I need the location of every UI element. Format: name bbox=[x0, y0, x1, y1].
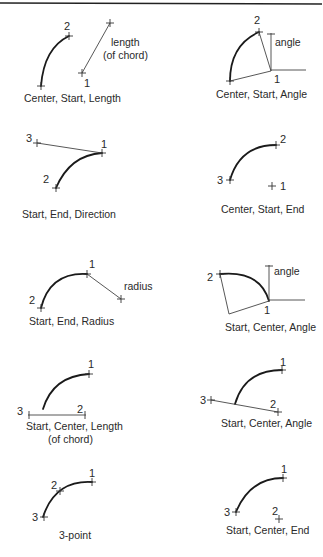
annotation: radius bbox=[124, 280, 153, 292]
point-marker bbox=[106, 19, 114, 27]
point-marker bbox=[207, 396, 215, 404]
center-marker bbox=[268, 182, 276, 190]
arc bbox=[230, 32, 259, 81]
point-marker bbox=[37, 304, 45, 312]
chord-length-line bbox=[82, 23, 110, 73]
point-marker bbox=[88, 478, 96, 486]
arc-methods-figure: 2 1 length (of chord) Center, Start, Len… bbox=[0, 0, 323, 557]
point-label: 1 bbox=[264, 304, 270, 316]
caption: Center, Start, End bbox=[221, 203, 305, 215]
center-line bbox=[211, 400, 278, 412]
point-marker bbox=[255, 28, 263, 36]
point-label: 2 bbox=[29, 294, 35, 306]
point-label: 1 bbox=[101, 138, 107, 150]
direction-line bbox=[37, 143, 102, 153]
top-rule bbox=[0, 3, 322, 4]
panel-three-point: 1 2 3 3-point bbox=[32, 467, 96, 541]
caption: Start, Center, Length bbox=[26, 420, 123, 432]
arc bbox=[56, 153, 102, 188]
caption-line-2: (of chord) bbox=[48, 433, 93, 445]
annotation: length bbox=[111, 36, 140, 48]
point-label: 1 bbox=[280, 180, 286, 192]
panel-start-center-angle-a: 2 1 angle Start, Center, Angle bbox=[207, 265, 316, 333]
point-marker bbox=[279, 474, 287, 482]
arc bbox=[41, 274, 87, 308]
annotation: angle bbox=[274, 265, 300, 277]
point-label: 2 bbox=[270, 398, 276, 410]
panel-center-start-length: 2 1 length (of chord) Center, Start, Len… bbox=[24, 19, 148, 104]
point-marker bbox=[37, 82, 45, 90]
caption: Start, Center, Angle bbox=[221, 417, 312, 429]
panel-start-end-direction: 3 1 2 Start, End, Direction bbox=[22, 132, 116, 220]
point-label: 2 bbox=[43, 173, 49, 185]
radius-line bbox=[230, 71, 271, 81]
caption: Start, Center, Angle bbox=[225, 321, 316, 333]
point-label: 2 bbox=[77, 403, 83, 415]
panel-start-center-length: 1 2 3 Start, Center, Length (of chord) bbox=[17, 358, 123, 445]
point-label: 3 bbox=[26, 132, 32, 144]
caption: Center, Start, Length bbox=[24, 92, 121, 104]
point-marker bbox=[216, 270, 224, 278]
point-marker bbox=[226, 176, 234, 184]
annotation: (of chord) bbox=[103, 49, 148, 61]
point-label: 2 bbox=[254, 14, 260, 26]
point-marker bbox=[226, 77, 234, 85]
annotation: angle bbox=[275, 36, 301, 48]
point-marker bbox=[117, 295, 125, 303]
arc bbox=[230, 145, 276, 180]
point-marker bbox=[78, 69, 86, 77]
point-marker bbox=[272, 141, 280, 149]
caption: Start, End, Direction bbox=[22, 208, 116, 220]
arc bbox=[41, 36, 69, 86]
point-label: 2 bbox=[207, 271, 213, 283]
point-label: 3 bbox=[200, 394, 206, 406]
point-label: 3 bbox=[217, 174, 223, 186]
point-label: 1 bbox=[89, 258, 95, 270]
point-label: 1 bbox=[281, 463, 287, 475]
point-marker bbox=[85, 370, 93, 378]
point-label: 2 bbox=[272, 505, 278, 517]
caption: 3-point bbox=[59, 529, 91, 541]
point-marker bbox=[98, 149, 106, 157]
panel-start-center-angle-b: 1 2 3 Start, Center, Angle bbox=[200, 356, 312, 429]
point-label: 2 bbox=[280, 133, 286, 145]
point-marker bbox=[83, 270, 91, 278]
point-label: 2 bbox=[51, 479, 57, 491]
arc bbox=[220, 274, 269, 301]
point-marker bbox=[40, 513, 48, 521]
panel-start-end-radius: 1 2 radius Start, End, Radius bbox=[29, 258, 153, 327]
radius-line bbox=[259, 32, 271, 71]
point-marker bbox=[52, 184, 60, 192]
point-label: 2 bbox=[64, 20, 70, 32]
panel-start-center-end: 1 2 3 Start, Center, End bbox=[224, 463, 310, 536]
point-label: 1 bbox=[280, 356, 286, 368]
point-label: 3 bbox=[32, 511, 38, 523]
caption: Start, End, Radius bbox=[29, 315, 114, 327]
point-marker bbox=[65, 32, 73, 40]
point-label: 3 bbox=[17, 405, 23, 417]
point-label: 1 bbox=[84, 77, 90, 89]
caption: Center, Start, Angle bbox=[216, 88, 307, 100]
panel-center-start-end: 2 3 1 Center, Start, End bbox=[217, 133, 305, 215]
point-label: 1 bbox=[89, 467, 95, 479]
radius-line bbox=[220, 274, 229, 314]
panel-center-start-angle: 2 1 angle Center, Start, Angle bbox=[216, 14, 307, 100]
radius-line bbox=[229, 301, 269, 314]
radius-line bbox=[87, 274, 121, 299]
point-label: 3 bbox=[224, 506, 230, 518]
point-marker bbox=[232, 508, 240, 516]
point-label: 1 bbox=[274, 73, 280, 85]
point-marker bbox=[33, 139, 41, 147]
point-label: 1 bbox=[88, 358, 94, 370]
caption: Start, Center, End bbox=[226, 524, 310, 536]
